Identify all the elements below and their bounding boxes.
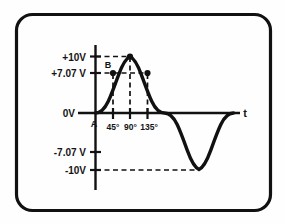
x-label-90deg: 90°	[124, 122, 137, 132]
point-label-a: A	[91, 119, 98, 129]
point-label-b: B	[105, 60, 112, 70]
x-label-135deg: 135°	[140, 122, 158, 132]
y-label-plus10: +10V	[62, 52, 86, 63]
y-label-zero: 0V	[63, 108, 76, 119]
marker-45deg	[110, 70, 116, 76]
marker-135deg	[144, 70, 150, 76]
y-label-minus10: -10V	[65, 165, 86, 176]
x-label-45deg: 45°	[107, 122, 120, 132]
marker-90deg-peak	[127, 53, 133, 59]
y-label-plus707: +7.07 V	[51, 68, 86, 79]
axis-label-t: t	[243, 107, 247, 119]
sine-wave-figure: +10V +7.07 V 0V -7.07 V -10V 45° 90° 135…	[0, 0, 285, 224]
y-label-minus707: -7.07 V	[54, 147, 87, 158]
